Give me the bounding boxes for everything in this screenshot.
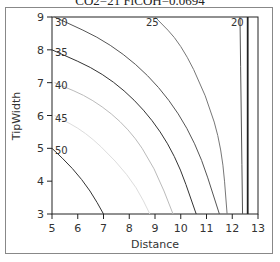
svg-text:3: 3 xyxy=(37,208,44,221)
contour-label-50: 50 xyxy=(55,145,68,156)
contour-line-20 xyxy=(240,17,243,214)
svg-text:7: 7 xyxy=(37,77,44,90)
contour-line-30 xyxy=(55,17,220,214)
svg-text:6: 6 xyxy=(74,222,81,235)
svg-text:5: 5 xyxy=(37,142,44,155)
contour-label-40: 40 xyxy=(55,80,68,91)
svg-text:9: 9 xyxy=(37,11,44,24)
svg-text:4: 4 xyxy=(37,175,44,188)
contour-label-45: 45 xyxy=(55,113,68,124)
svg-text:10: 10 xyxy=(174,222,188,235)
svg-text:13: 13 xyxy=(251,222,265,235)
axis-ticks: 56789101112133456789 xyxy=(37,11,265,235)
svg-text:11: 11 xyxy=(200,222,214,235)
contour-line-50 xyxy=(52,148,104,214)
contour-lines xyxy=(52,17,248,214)
svg-text:7: 7 xyxy=(100,222,107,235)
contour-label-35: 35 xyxy=(55,47,68,58)
y-axis-title: TipWidth xyxy=(10,92,23,141)
contour-line-35 xyxy=(52,50,196,214)
svg-text:8: 8 xyxy=(37,44,44,57)
x-axis-title: Distance xyxy=(131,238,179,251)
contour-plot: 56789101112133456789 30354045502520 Dist… xyxy=(0,0,280,262)
contour-line-40 xyxy=(55,83,173,214)
contour-label-25: 25 xyxy=(146,17,159,28)
svg-text:8: 8 xyxy=(126,222,133,235)
contour-label-20: 20 xyxy=(231,17,244,28)
svg-text:12: 12 xyxy=(225,222,239,235)
contour-line-25 xyxy=(155,17,227,214)
svg-text:6: 6 xyxy=(37,110,44,123)
contour-label-30: 30 xyxy=(55,17,68,28)
plot-area xyxy=(52,17,258,214)
svg-text:5: 5 xyxy=(49,222,56,235)
contour-labels: 30354045502520 xyxy=(55,17,244,156)
svg-text:9: 9 xyxy=(152,222,159,235)
